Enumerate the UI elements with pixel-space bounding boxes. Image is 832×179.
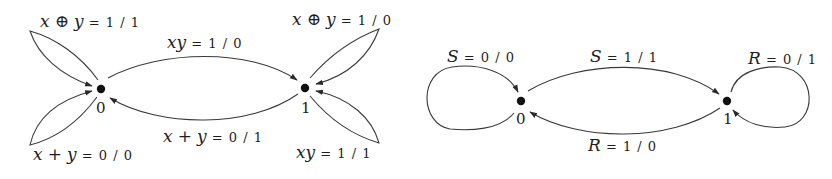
input-var-y: y [67, 144, 77, 164]
input-var-y: y [74, 11, 84, 31]
right-state-diagram [427, 66, 809, 134]
input-var-s: S [447, 46, 459, 66]
edge-0-to-1 [108, 57, 297, 81]
input-var-x: x [40, 11, 50, 31]
input-var-y: y [177, 32, 187, 52]
state-label-0: 0 [96, 101, 106, 116]
state-label-s1: 1 [723, 112, 733, 127]
edge-0-loop-top [30, 31, 98, 86]
transition-label-s0-to-1: S = 1 / 1 [590, 48, 658, 65]
transition-value: = 0 / 1 [212, 130, 263, 145]
edge-1-loop-bottom [310, 91, 379, 143]
transition-value: = 1 / 0 [191, 36, 242, 51]
edge-0-loop-bottom [30, 91, 97, 145]
transition-label-s0-loop: S = 0 / 0 [447, 48, 515, 65]
input-var-y: y [197, 126, 207, 146]
transition-label-s1-to-0: R = 1 / 0 [588, 137, 657, 154]
input-var-s: S [590, 46, 602, 66]
xor-operator: ⊕ [55, 11, 69, 31]
state-label-1: 1 [301, 101, 311, 116]
input-var-y: y [326, 9, 336, 29]
state-label-s0: 0 [516, 112, 526, 127]
edge-s1-loop [731, 67, 809, 128]
input-var-x: x [296, 142, 306, 162]
transition-value: = 1 / 0 [341, 13, 392, 28]
transition-label-s1-loop: R = 0 / 1 [748, 50, 817, 67]
state-diagrams-figure: 0 1 x ⊕ y = 1 / 1 x + y = 0 / 0 xy = 1 /… [0, 0, 832, 179]
state-node-s0 [517, 97, 525, 105]
transition-value: = 1 / 1 [320, 146, 371, 161]
transition-label-1-loop-top: x ⊕ y = 1 / 0 [292, 11, 392, 28]
transition-label-1-to-0: x + y = 0 / 1 [163, 128, 263, 145]
edge-1-loop-top [310, 29, 379, 84]
transition-label-0-loop-bottom: x + y = 0 / 0 [33, 146, 133, 163]
transition-label-0-to-1: xy = 1 / 0 [167, 34, 243, 51]
state-node-s1 [723, 97, 731, 105]
state-node-1 [301, 84, 309, 92]
transition-value: = 0 / 0 [464, 50, 515, 65]
input-var-x: x [167, 32, 177, 52]
transition-value: = 1 / 0 [606, 139, 657, 154]
transition-value: = 1 / 1 [607, 50, 658, 65]
xor-operator: ⊕ [307, 9, 321, 29]
state-node-0 [97, 85, 105, 93]
edge-s0-loop [427, 66, 518, 130]
edge-s0-to-1 [528, 67, 719, 94]
input-var-r: R [748, 48, 761, 68]
transition-value: = 1 / 1 [89, 15, 140, 30]
input-var-x: x [292, 9, 302, 29]
input-var-r: R [588, 135, 601, 155]
transition-label-0-loop-top: x ⊕ y = 1 / 1 [40, 13, 140, 30]
edge-s1-to-0 [530, 108, 720, 134]
transition-value: = 0 / 0 [82, 148, 133, 163]
or-operator: + [48, 144, 62, 164]
transition-value: = 0 / 1 [766, 52, 817, 67]
edge-1-to-0 [110, 94, 298, 120]
input-var-y: y [306, 142, 316, 162]
input-var-x: x [163, 126, 173, 146]
input-var-x: x [33, 144, 43, 164]
transition-label-1-loop-bottom: xy = 1 / 1 [296, 144, 372, 161]
or-operator: + [178, 126, 192, 146]
